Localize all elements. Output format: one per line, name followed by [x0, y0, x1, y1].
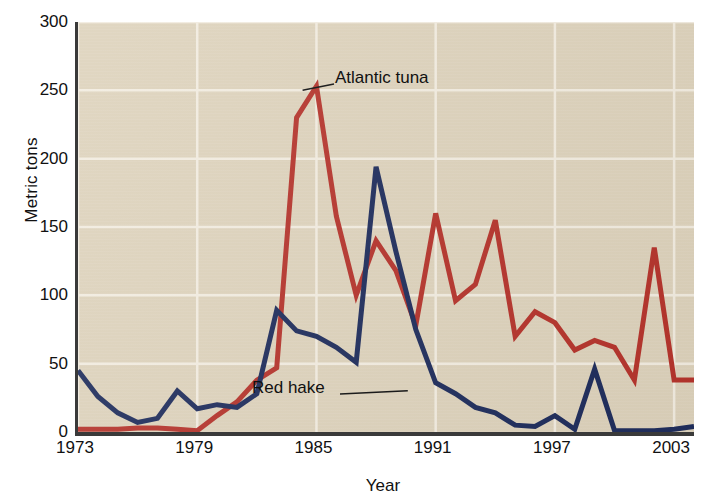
series-line-atlantic-tuna — [78, 86, 694, 430]
y-axis-tick-label: 250 — [13, 80, 75, 100]
x-axis-title: Year — [75, 476, 691, 496]
x-axis-tick-label: 1973 — [56, 438, 94, 458]
y-axis-tick-label: 200 — [13, 149, 75, 169]
x-axis-tick-label: 2003 — [652, 438, 690, 458]
x-axis-tick-label: 1997 — [533, 438, 571, 458]
x-axis-tick-label: 1979 — [175, 438, 213, 458]
chart-figure: Metric tons 050100150200250300 197319791… — [0, 0, 707, 504]
series-label-red-hake: Red hake — [252, 378, 325, 398]
series-label-atlantic-tuna: Atlantic tuna — [335, 68, 429, 88]
x-axis-tick-label: 1985 — [295, 438, 333, 458]
y-axis-tick-label: 150 — [13, 217, 75, 237]
series-lines — [78, 86, 694, 430]
x-axis-tick-label: 1991 — [414, 438, 452, 458]
y-axis-tick-label: 300 — [13, 12, 75, 32]
leader-line-red-hake — [340, 391, 408, 394]
y-axis-tick-label: 50 — [13, 354, 75, 374]
y-axis-tick-labels: 050100150200250300 — [0, 0, 75, 504]
y-axis-tick-label: 100 — [13, 285, 75, 305]
